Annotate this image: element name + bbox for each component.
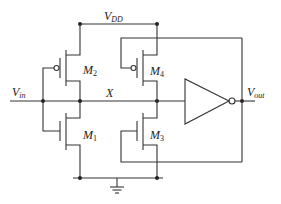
m3-label: M3 (149, 128, 164, 143)
schematic: VDD Vin Vout X M2 M1 M4 M3 (0, 0, 281, 204)
transistor-m4 (121, 24, 242, 101)
vin-input (10, 99, 45, 103)
x-node-label: X (105, 86, 114, 100)
ground-rail (73, 176, 163, 180)
ground-icon (110, 178, 124, 193)
vin-label: Vin (12, 85, 26, 100)
circuit-diagram: VDD Vin Vout X M2 M1 M4 M3 (0, 0, 281, 204)
vdd-label: VDD (104, 9, 123, 24)
vout-label: Vout (247, 85, 265, 100)
x-node-wire (43, 99, 185, 103)
transistor-m1 (43, 101, 80, 178)
transistor-m3 (121, 101, 242, 178)
inverter (185, 79, 255, 124)
transistor-m2 (43, 24, 80, 101)
m4-label: M4 (149, 64, 164, 79)
m1-label: M1 (82, 128, 97, 143)
m2-label: M2 (82, 63, 97, 78)
